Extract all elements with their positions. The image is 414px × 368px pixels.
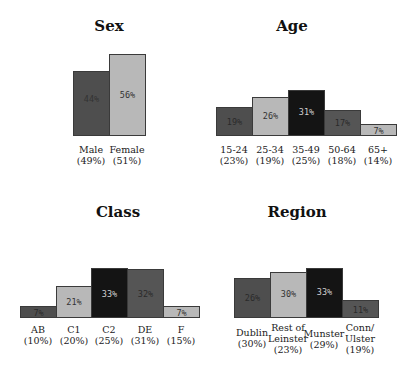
bar-value-label: 26% — [253, 111, 288, 121]
category-label: F(15%) — [167, 324, 196, 346]
bar-value-label: 56% — [110, 90, 145, 100]
bar-ab: 7% — [20, 306, 57, 318]
category-label: 25-34(19%) — [256, 144, 285, 166]
category-label: Rest ofLeinster(23%) — [268, 322, 308, 355]
bar-value-label: 7% — [164, 308, 199, 318]
chart-title: Region — [267, 203, 326, 221]
bar-conn-ulster: 11% — [342, 300, 379, 318]
bar-65-plus: 7% — [360, 124, 397, 136]
bar-value-label: 21% — [57, 297, 91, 307]
bar-value-label: 19% — [217, 117, 252, 127]
bar-value-label: 26% — [235, 293, 270, 303]
chart-title: Sex — [94, 17, 123, 35]
bar-male: 44% — [73, 71, 110, 136]
bar-value-label: 33% — [307, 287, 342, 297]
bar-f: 7% — [163, 306, 200, 318]
bar-35-49: 31% — [288, 90, 325, 136]
chart-title: Age — [276, 17, 308, 35]
category-label: 35-49(25%) — [292, 144, 321, 166]
category-label: AB(10%) — [24, 324, 53, 346]
bar-value-label: 17% — [325, 118, 360, 128]
bar-value-label: 7% — [21, 308, 56, 318]
category-label: DE(31%) — [131, 324, 160, 346]
bar-value-label: 44% — [74, 94, 109, 104]
category-label: Munster(29%) — [304, 328, 345, 350]
category-label: C1(20%) — [60, 324, 89, 346]
bar-munster: 33% — [306, 268, 343, 318]
category-label: Conn/Ulster(19%) — [345, 322, 375, 355]
category-label: Female(51%) — [109, 144, 144, 166]
category-label: 50-64(18%) — [328, 144, 357, 166]
bar-dublin: 26% — [234, 278, 271, 318]
bar-25-34: 26% — [252, 97, 289, 136]
bar-15-24: 19% — [216, 107, 253, 136]
category-label: C2(25%) — [95, 324, 124, 346]
bar-value-label: 30% — [271, 289, 306, 299]
bar-c1: 21% — [56, 286, 92, 318]
category-label: Dublin(30%) — [236, 327, 268, 349]
bar-50-64: 17% — [324, 110, 361, 136]
bar-value-label: 7% — [361, 126, 396, 136]
chart-title: Class — [96, 203, 140, 221]
bar-rest-of-leinster: 30% — [270, 272, 307, 318]
bar-value-label: 32% — [128, 289, 163, 299]
bar-de: 32% — [127, 269, 164, 318]
category-label: Male(49%) — [77, 144, 106, 166]
category-label: 15-24(23%) — [220, 144, 249, 166]
bar-value-label: 33% — [92, 289, 127, 299]
bar-value-label: 11% — [343, 305, 378, 315]
bar-c2: 33% — [91, 268, 128, 318]
category-label: 65+(14%) — [364, 144, 393, 166]
bar-female: 56% — [109, 54, 146, 136]
bar-value-label: 31% — [289, 107, 324, 117]
